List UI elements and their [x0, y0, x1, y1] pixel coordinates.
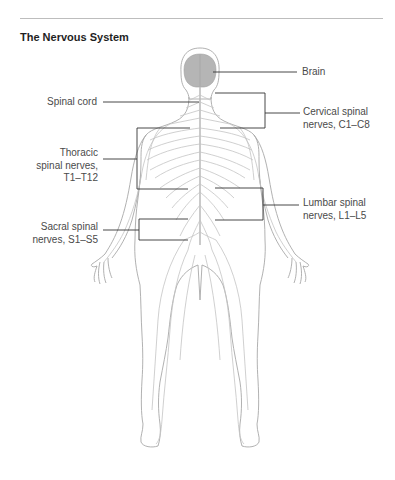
label-cervical: Cervical spinal nerves, C1–C8: [303, 106, 370, 131]
label-sacral-line1: Sacral spinal: [32, 221, 98, 234]
label-thoracic-line3: T1–T12: [36, 172, 98, 185]
label-lumbar-line2: nerves, L1–L5: [303, 210, 366, 223]
label-thoracic-line1: Thoracic: [36, 147, 98, 160]
label-thoracic-line2: spinal nerves,: [36, 160, 98, 173]
label-lumbar-line1: Lumbar spinal: [303, 197, 366, 210]
label-sacral: Sacral spinal nerves, S1–S5: [32, 221, 98, 246]
label-spinal-cord: Spinal cord: [47, 96, 97, 109]
label-cervical-line1: Cervical spinal: [303, 106, 370, 119]
label-sacral-line2: nerves, S1–S5: [32, 234, 98, 247]
label-lumbar: Lumbar spinal nerves, L1–L5: [303, 197, 366, 222]
label-cervical-line2: nerves, C1–C8: [303, 119, 370, 132]
nerves: [104, 87, 296, 444]
label-brain: Brain: [302, 66, 325, 79]
leader-lines: [103, 72, 300, 240]
label-thoracic: Thoracic spinal nerves, T1–T12: [36, 147, 98, 185]
